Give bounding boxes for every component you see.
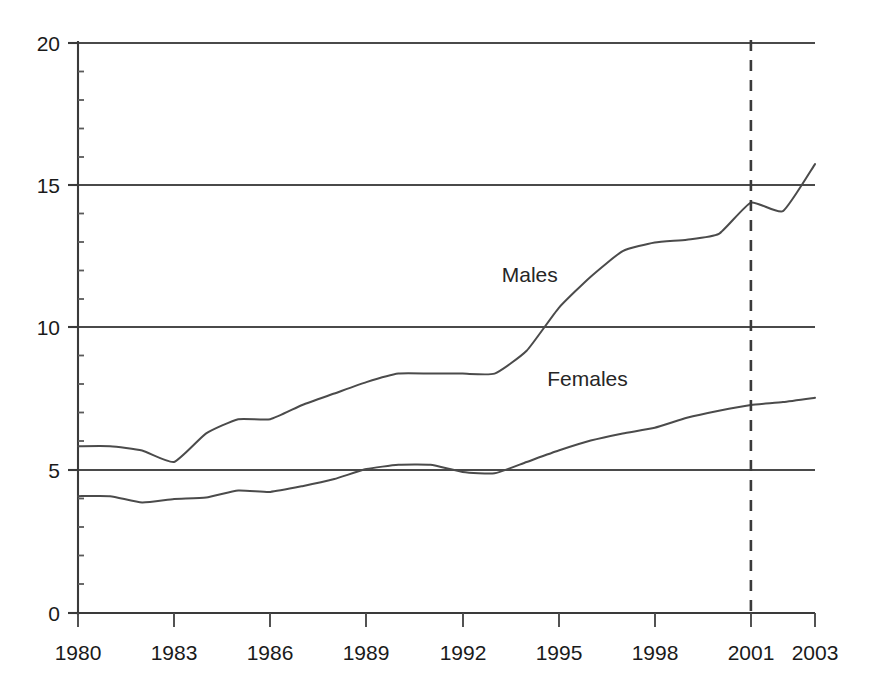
x-ticks <box>78 613 815 627</box>
y-major-ticks <box>68 43 78 613</box>
gridlines <box>78 43 815 613</box>
y-tick-label-5: 5 <box>48 459 60 482</box>
x-tick-label-1986: 1986 <box>247 641 294 664</box>
x-tick-label-1992: 1992 <box>440 641 487 664</box>
y-tick-label-15: 15 <box>37 174 60 197</box>
y-tick-labels: 20 15 10 5 0 <box>37 32 60 625</box>
line-chart: 20 15 10 5 0 1980 1983 1986 1989 1992 19… <box>0 0 869 696</box>
series-group <box>78 164 815 502</box>
series-line-males <box>78 164 815 462</box>
x-tick-label-1983: 1983 <box>151 641 198 664</box>
x-tick-label-2001: 2001 <box>728 641 775 664</box>
series-label-males: Males <box>502 263 558 286</box>
y-tick-label-20: 20 <box>37 32 60 55</box>
x-tick-label-1980: 1980 <box>55 641 102 664</box>
y-tick-label-0: 0 <box>48 602 60 625</box>
x-tick-label-1998: 1998 <box>632 641 679 664</box>
x-tick-labels: 1980 1983 1986 1989 1992 1995 1998 2001 … <box>55 641 839 664</box>
x-tick-label-2003: 2003 <box>792 641 839 664</box>
chart-canvas: 20 15 10 5 0 1980 1983 1986 1989 1992 19… <box>0 0 869 696</box>
x-tick-label-1989: 1989 <box>343 641 390 664</box>
x-tick-label-1995: 1995 <box>536 641 583 664</box>
y-tick-label-10: 10 <box>37 316 60 339</box>
series-label-females: Females <box>547 367 628 390</box>
